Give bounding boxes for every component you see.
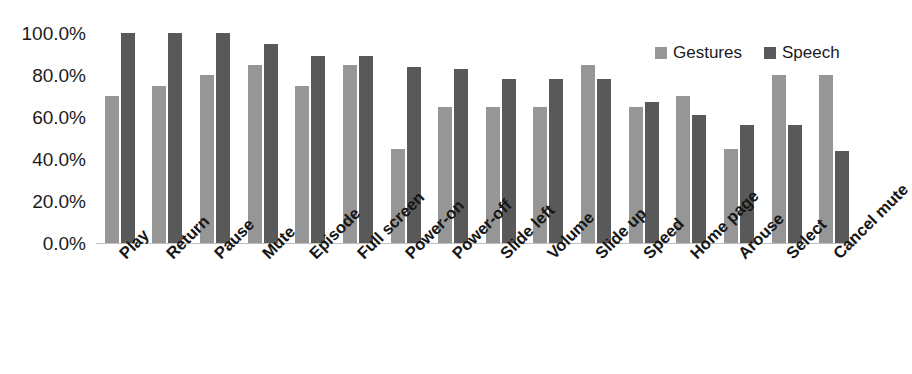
- bar-speech: [121, 33, 135, 243]
- bar-speech: [645, 102, 659, 243]
- bar-gestures: [248, 65, 262, 244]
- bar-gestures: [295, 86, 309, 244]
- legend-label: Speech: [782, 44, 840, 61]
- legend-entry: Speech: [764, 44, 840, 61]
- y-axis: 100.0%80.0%60.0%40.0%20.0%0.0%: [0, 0, 92, 374]
- bar-speech: [692, 115, 706, 243]
- x-axis-labels: PlayReturnPauseMuteEpisodeFull screenPow…: [96, 244, 858, 364]
- legend-swatch-icon: [655, 47, 667, 59]
- bar-gestures: [819, 75, 833, 243]
- bar-speech: [597, 79, 611, 243]
- y-tick-label: 100.0%: [22, 24, 86, 43]
- bar-speech: [740, 125, 754, 243]
- bar-speech: [788, 125, 802, 243]
- bar-group: [144, 33, 192, 243]
- y-tick-label: 40.0%: [32, 150, 86, 169]
- bar-speech: [216, 33, 230, 243]
- bar-speech: [264, 44, 278, 244]
- legend-entry: Gestures: [655, 44, 742, 61]
- bar-group: [239, 33, 287, 243]
- bar-group: [763, 33, 811, 243]
- y-tick-label: 20.0%: [32, 192, 86, 211]
- bar-gestures: [152, 86, 166, 244]
- bar-speech: [168, 33, 182, 243]
- bar-gestures: [105, 96, 119, 243]
- legend-swatch-icon: [764, 47, 776, 59]
- bar-group: [287, 33, 335, 243]
- bar-group: [810, 33, 858, 243]
- bar-speech: [311, 56, 325, 243]
- y-tick-label: 0.0%: [43, 234, 86, 253]
- bar-speech: [835, 151, 849, 243]
- y-tick-label: 60.0%: [32, 108, 86, 127]
- chart-legend: GesturesSpeech: [655, 44, 840, 61]
- y-tick-label: 80.0%: [32, 66, 86, 85]
- legend-label: Gestures: [673, 44, 742, 61]
- bar-group: [668, 33, 716, 243]
- bar-group: [96, 33, 144, 243]
